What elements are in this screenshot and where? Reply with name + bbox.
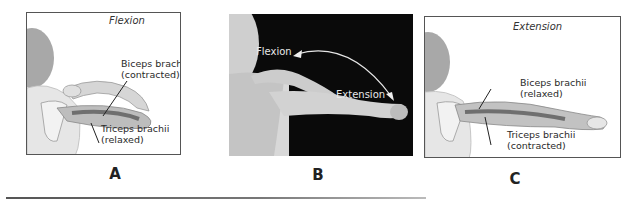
triceps-label-a: Triceps brachii (relaxed) [101,123,169,145]
biceps-label-a: Biceps brachii (contracted) [121,58,181,80]
panel-c-letter: C [500,170,530,188]
panel-a-title: Flexion [109,15,145,26]
panel-b-photo: Flexion Extension [229,14,413,156]
extension-arrow-label: Extension [336,89,385,100]
panel-a-flexion-illustration: Flexion Biceps brachii (contracted) Tric… [26,12,181,155]
panel-a-letter: A [100,165,130,183]
panel-b-letter: B [303,166,333,184]
triceps-label-c: Triceps brachii (contracted) [507,129,575,151]
panel-c-title: Extension [513,21,562,32]
panel-c-extension-illustration: Extension Biceps brachii (relaxed) Trice… [424,16,621,158]
biceps-label-c: Biceps brachii (relaxed) [520,77,587,99]
flexion-arrow-label: Flexion [256,46,292,57]
bottom-divider [6,197,426,199]
arm-motion-photo [229,14,413,156]
